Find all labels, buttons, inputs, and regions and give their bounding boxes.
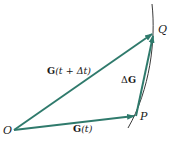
label-delta-g-bold: G xyxy=(128,74,136,85)
label-delta-g: ΔG xyxy=(121,74,136,85)
label-g-t-bold: G xyxy=(73,123,81,134)
vector-delta-g xyxy=(136,36,153,116)
label-g-t-plus-dt: G(t + Δt) xyxy=(47,65,91,76)
point-label-o: O xyxy=(3,124,12,137)
point-label-p: P xyxy=(139,110,148,123)
label-g-t-plus-dt-bold: G xyxy=(47,65,55,76)
label-g-t-rest: (t) xyxy=(81,123,93,134)
point-label-q: Q xyxy=(158,23,167,36)
label-g-t: G(t) xyxy=(73,123,93,134)
vector-diagram: O P Q G(t + Δt) ΔG G(t) xyxy=(0,0,173,145)
label-g-t-plus-dt-rest: (t + Δt) xyxy=(55,65,91,76)
